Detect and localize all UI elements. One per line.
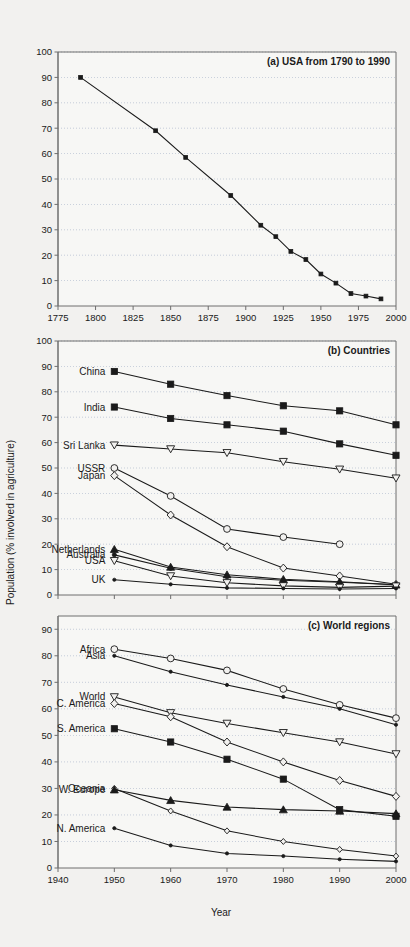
data-point xyxy=(113,654,116,657)
data-point xyxy=(393,422,399,428)
x-tick-label: 1775 xyxy=(47,312,68,323)
data-point xyxy=(224,756,230,762)
y-tick-label: 40 xyxy=(41,488,52,499)
series-label-india: India xyxy=(84,402,106,413)
y-tick-label: 10 xyxy=(41,275,52,286)
y-axis-ticks: 0102030405060708090100 xyxy=(36,335,58,600)
y-tick-label: 20 xyxy=(41,539,52,550)
data-point xyxy=(169,583,172,586)
y-axis-title-container: Population (% involved in agriculture) xyxy=(0,330,22,610)
data-point xyxy=(280,534,287,541)
panel-b-countries: 0102030405060708090100(b) CountriesChina… xyxy=(26,337,402,609)
x-tick-label: 1980 xyxy=(273,874,294,885)
data-point xyxy=(111,726,117,732)
agriculture-population-figure: Population (% involved in agriculture) 0… xyxy=(0,0,410,947)
data-point xyxy=(394,587,397,590)
data-point xyxy=(282,587,285,590)
x-tick-label: 1950 xyxy=(310,312,331,323)
series-label-c-america: C. America xyxy=(56,698,105,709)
x-tick-label: 1825 xyxy=(123,312,144,323)
data-point xyxy=(167,655,174,662)
data-point xyxy=(337,441,343,447)
data-point xyxy=(336,541,343,548)
y-tick-label: 60 xyxy=(41,148,52,159)
data-point xyxy=(168,415,174,421)
data-point xyxy=(364,294,368,298)
data-point xyxy=(169,844,172,847)
y-tick-label: 70 xyxy=(41,412,52,423)
series-label-usa: USA xyxy=(85,555,106,566)
series-label-s-america: S. America xyxy=(57,723,106,734)
y-tick-label: 50 xyxy=(41,173,52,184)
series-label-uk: UK xyxy=(91,574,105,585)
y-tick-label: 40 xyxy=(41,756,52,767)
x-tick-label: 1970 xyxy=(216,874,237,885)
x-tick-label: 1875 xyxy=(198,312,219,323)
panel-a-usa: 0102030405060708090100177518001825185018… xyxy=(26,48,402,330)
data-point xyxy=(225,586,228,589)
data-point xyxy=(338,707,341,710)
y-tick-label: 60 xyxy=(41,437,52,448)
data-point xyxy=(349,292,353,296)
x-tick-label: 2000 xyxy=(385,874,406,885)
y-tick-label: 50 xyxy=(41,730,52,741)
y-tick-label: 20 xyxy=(41,809,52,820)
data-point xyxy=(282,695,285,698)
y-tick-label: 100 xyxy=(36,46,52,57)
x-tick-label: 2000 xyxy=(385,312,406,323)
data-point xyxy=(280,686,287,693)
x-tick-label: 1940 xyxy=(47,874,68,885)
data-point xyxy=(280,403,286,409)
y-tick-label: 90 xyxy=(41,361,52,372)
data-point xyxy=(334,281,338,285)
y-axis-title: Population (% involved in agriculture) xyxy=(5,440,16,605)
y-tick-label: 70 xyxy=(41,677,52,688)
series-label-sri-lanka: Sri Lanka xyxy=(63,440,106,451)
data-point xyxy=(113,827,116,830)
x-tick-label: 1960 xyxy=(160,874,181,885)
data-point xyxy=(393,452,399,458)
data-point xyxy=(259,223,263,227)
y-tick-label: 50 xyxy=(41,462,52,473)
series-label-china: China xyxy=(79,366,106,377)
x-tick-label: 1800 xyxy=(85,312,106,323)
data-point xyxy=(112,553,116,557)
y-tick-label: 40 xyxy=(41,199,52,210)
data-point xyxy=(111,404,117,410)
data-point xyxy=(169,566,173,570)
data-point xyxy=(280,776,286,782)
panel-title: (a) USA from 1790 to 1990 xyxy=(267,56,390,67)
y-tick-label: 80 xyxy=(41,386,52,397)
data-point xyxy=(229,194,233,198)
y-tick-label: 30 xyxy=(41,513,52,524)
data-point xyxy=(79,76,83,80)
data-point xyxy=(224,393,230,399)
x-tick-label: 1850 xyxy=(160,312,181,323)
y-tick-label: 90 xyxy=(41,624,52,635)
y-tick-label: 30 xyxy=(41,783,52,794)
data-point xyxy=(319,272,323,276)
data-point xyxy=(111,465,118,472)
x-tick-label: 1925 xyxy=(273,312,294,323)
data-point xyxy=(379,297,383,301)
data-point xyxy=(111,368,117,374)
panel-title: (c) World regions xyxy=(308,620,390,631)
data-point xyxy=(225,575,229,579)
data-point xyxy=(224,667,231,674)
series-label-n-america: N. America xyxy=(56,823,105,834)
data-point xyxy=(338,858,341,861)
y-tick-label: 90 xyxy=(41,72,52,83)
series-label-w-europe: W. Europe xyxy=(59,784,106,795)
data-point xyxy=(337,408,343,414)
y-tick-label: 0 xyxy=(47,300,52,311)
y-tick-label: 0 xyxy=(47,862,52,873)
y-tick-label: 10 xyxy=(41,836,52,847)
series-label-asia: Asia xyxy=(86,650,106,661)
data-point xyxy=(393,715,400,722)
x-axis-title-container: Year xyxy=(26,900,402,926)
data-point xyxy=(280,428,286,434)
data-point xyxy=(281,578,285,582)
data-point xyxy=(224,526,231,533)
y-tick-label: 0 xyxy=(47,589,52,600)
data-point xyxy=(225,852,228,855)
